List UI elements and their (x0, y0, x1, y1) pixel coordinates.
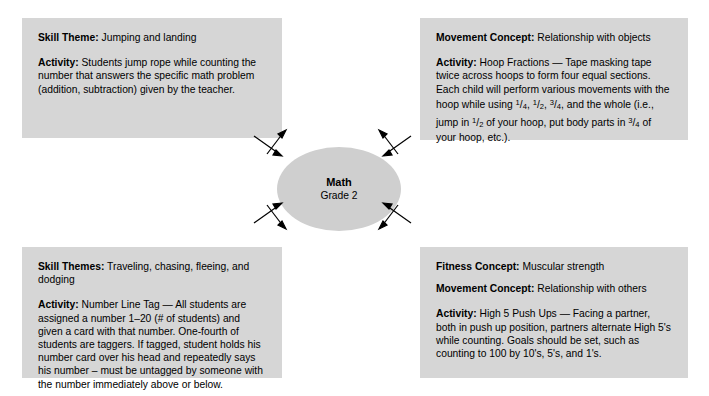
panel-top-left-line1-value: Jumping and landing (102, 32, 197, 43)
panel-bottom-right: Fitness Concept: Muscular strength Movem… (420, 247, 688, 378)
connector-arrows-bottom-right (377, 195, 413, 229)
panel-bottom-right-line2-value: Relationship with others (537, 283, 646, 294)
connector-arrows-bottom-left (252, 195, 288, 229)
panel-top-left: Skill Theme: Jumping and landing Activit… (22, 18, 282, 138)
panel-top-left-line2-label: Activity: (38, 57, 79, 68)
fraction-three-quarters-second: 3/4 (628, 117, 639, 128)
panel-bottom-right-line2: Movement Concept: Relationship with othe… (436, 282, 672, 295)
panel-top-left-line1: Skill Theme: Jumping and landing (38, 31, 266, 44)
panel-bottom-right-line1-label: Fitness Concept: (436, 261, 520, 272)
panel-bottom-left-line2: Activity: Number Line Tag — All students… (38, 298, 266, 390)
center-title: Math (326, 176, 352, 189)
panel-top-right: Movement Concept: Relationship with obje… (420, 18, 688, 140)
panel-bottom-left: Skill Themes: Traveling, chasing, fleein… (22, 247, 282, 378)
panel-bottom-left-line2-label: Activity: (38, 299, 79, 310)
connector-arrows-top-left (252, 130, 288, 164)
panel-top-right-line1-label: Movement Concept: (436, 32, 534, 43)
fraction-one-half: 1/2 (533, 99, 544, 110)
panel-top-left-line2: Activity: Students jump rope while count… (38, 56, 266, 96)
panel-bottom-right-line2-label: Movement Concept: (436, 283, 534, 294)
fraction-one-half-second: 1/2 (472, 117, 483, 128)
fraction-one-quarter: 1/4 (516, 99, 527, 110)
panel-bottom-left-line1-label: Skill Themes: (38, 261, 104, 272)
panel-top-right-line1-value: Relationship with objects (537, 32, 650, 43)
panel-bottom-left-line2-value: Number Line Tag — All students are assig… (38, 299, 263, 389)
panel-bottom-right-line1: Fitness Concept: Muscular strength (436, 260, 672, 273)
panel-top-right-line2: Activity: Hoop Fractions — Tape masking … (436, 56, 672, 144)
panel-bottom-right-line3-label: Activity: (436, 308, 477, 319)
center-subtitle: Grade 2 (320, 189, 357, 202)
panel-bottom-right-line3: Activity: High 5 Push Ups — Facing a par… (436, 307, 672, 360)
fraction-three-quarters: 3/4 (550, 99, 561, 110)
panel-bottom-left-line1: Skill Themes: Traveling, chasing, fleein… (38, 260, 266, 286)
connector-arrows-top-right (377, 130, 413, 164)
panel-bottom-right-line1-value: Muscular strength (522, 261, 604, 272)
panel-top-right-line2-label: Activity: (436, 57, 477, 68)
panel-top-right-line1: Movement Concept: Relationship with obje… (436, 31, 672, 44)
concept-map-figure: Skill Theme: Jumping and landing Activit… (0, 0, 709, 396)
panel-top-left-line1-label: Skill Theme: (38, 32, 99, 43)
panel-top-right-activity-part-c: of your hoop, put body parts in (483, 117, 628, 128)
